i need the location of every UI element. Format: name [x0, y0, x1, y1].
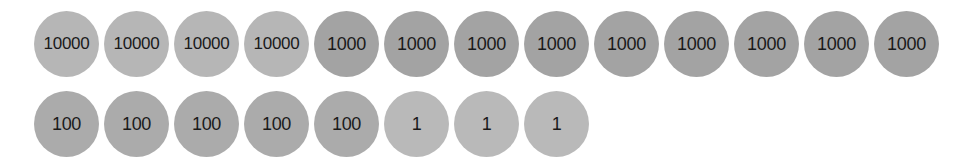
coin-1000: 1000 — [314, 11, 379, 77]
coin-1: 1 — [454, 91, 519, 157]
coin-1: 1 — [524, 91, 589, 157]
coin-10000: 10000 — [174, 11, 239, 77]
coin-1: 1 — [384, 91, 449, 157]
coin-100: 100 — [314, 91, 379, 157]
coin-100: 100 — [244, 91, 309, 157]
coin-row-2: 100 100 100 100 100 1 1 1 — [34, 91, 589, 157]
coin-1000: 1000 — [664, 11, 729, 77]
coin-10000: 10000 — [104, 11, 169, 77]
coin-1000: 1000 — [804, 11, 869, 77]
coin-row-1: 10000 10000 10000 10000 1000 1000 1000 1… — [34, 11, 939, 77]
coin-10000: 10000 — [244, 11, 309, 77]
coin-100: 100 — [34, 91, 99, 157]
coin-1000: 1000 — [384, 11, 449, 77]
coin-1000: 1000 — [594, 11, 659, 77]
coin-1000: 1000 — [454, 11, 519, 77]
coin-1000: 1000 — [734, 11, 799, 77]
coin-100: 100 — [104, 91, 169, 157]
coin-1000: 1000 — [524, 11, 589, 77]
coin-10000: 10000 — [34, 11, 99, 77]
coin-100: 100 — [174, 91, 239, 157]
coin-1000: 1000 — [874, 11, 939, 77]
